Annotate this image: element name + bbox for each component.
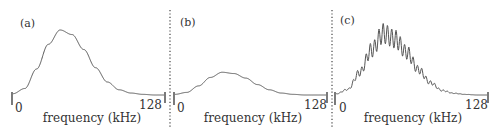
figure: (a) 0 128 frequency (kHz) (b) 0 128 freq… xyxy=(0,0,497,131)
panel-b-tick-end: 128 xyxy=(304,98,327,112)
spectrum-curve-b xyxy=(175,72,326,95)
panel-b-label: (b) xyxy=(180,16,196,29)
panel-a-xlabel: frequency (kHz) xyxy=(43,111,141,125)
spectrum-curve-a xyxy=(13,30,164,95)
panel-a-tick-end: 128 xyxy=(139,98,162,112)
panel-c-tick-end: 128 xyxy=(465,98,488,112)
panel-c-tick-start: 0 xyxy=(339,101,347,115)
panel-a-tick-start: 0 xyxy=(15,101,23,115)
spectrum-curve-c xyxy=(336,24,487,96)
panel-b-xlabel: frequency (kHz) xyxy=(204,111,302,125)
panel-c-xlabel: frequency (kHz) xyxy=(364,111,462,125)
panel-b-tick-start: 0 xyxy=(177,101,185,115)
panel-c-label: (c) xyxy=(340,14,355,27)
panel-a-label: (a) xyxy=(20,17,35,30)
